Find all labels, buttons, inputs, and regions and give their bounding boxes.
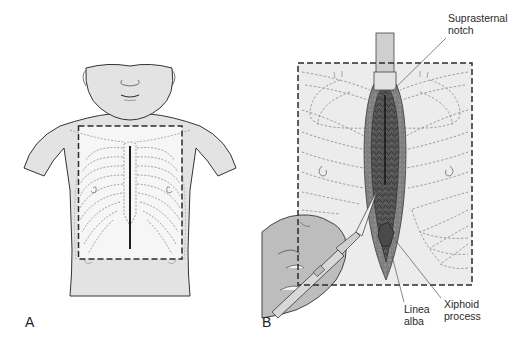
retractor-blade — [374, 72, 396, 90]
figure: A B Suprasternal notch Linea alba Xiphoi… — [0, 0, 524, 357]
panel-letter-b: B — [262, 314, 271, 330]
label-suprasternal-line2: notch — [448, 24, 508, 36]
label-xiphoid-process: Xiphoid process — [444, 298, 481, 322]
label-suprasternal-notch: Suprasternal notch — [448, 12, 508, 36]
hand — [262, 215, 346, 318]
label-xiphoid-line2: process — [444, 310, 481, 322]
panel-a — [24, 64, 236, 296]
head — [86, 64, 173, 120]
label-linea-alba: Linea alba — [404, 303, 430, 327]
label-xiphoid-line1: Xiphoid — [444, 298, 481, 310]
panel-b — [262, 33, 472, 318]
label-linea-alba-line2: alba — [404, 315, 430, 327]
label-linea-alba-line1: Linea — [404, 303, 430, 315]
panel-letter-a: A — [25, 314, 34, 330]
label-suprasternal-line1: Suprasternal — [448, 12, 508, 24]
retractor-shaft — [376, 33, 394, 75]
